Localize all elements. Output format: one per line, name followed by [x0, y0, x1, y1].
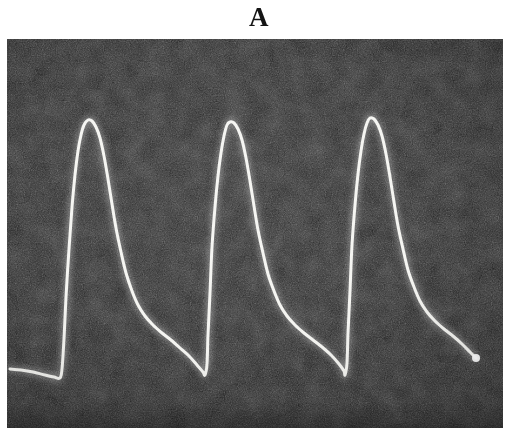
- panel-blotch-texture: [7, 39, 503, 428]
- trace-canvas: [7, 39, 503, 428]
- figure-root: A: [0, 0, 518, 448]
- trace-terminal-marker: [472, 354, 480, 362]
- oscilloscope-panel: [7, 39, 503, 428]
- panel-letter-label: A: [0, 2, 518, 32]
